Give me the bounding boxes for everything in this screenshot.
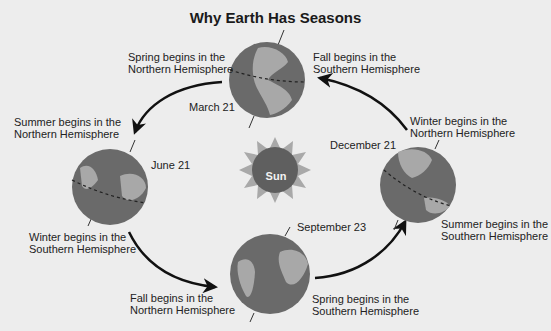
arrow-june-to-september xyxy=(129,232,215,287)
label-line: Northern Hemisphere xyxy=(14,128,121,140)
label-line: Fall begins in the xyxy=(313,51,420,63)
label-line: Northern Hemisphere xyxy=(410,127,515,139)
arrow-december-to-march xyxy=(320,78,407,130)
label-line: Southern Hemisphere xyxy=(441,230,548,242)
label-line: Winter begins in the xyxy=(410,115,515,127)
june-date: June 21 xyxy=(151,159,190,171)
june-northern-label: Summer begins in the Northern Hemisphere xyxy=(14,116,121,140)
earth-december-globe-icon xyxy=(380,140,456,230)
march-date: March 21 xyxy=(189,101,235,113)
march-southern-label: Fall begins in the Southern Hemisphere xyxy=(313,51,420,75)
label-line: Northern Hemisphere xyxy=(130,304,235,316)
earth-september-globe-icon xyxy=(230,227,310,322)
label-line: Winter begins in the xyxy=(29,231,136,243)
march-northern-label: Spring begins in the Northern Hemisphere xyxy=(128,51,233,75)
label-line: Spring begins in the xyxy=(128,51,233,63)
label-line: Spring begins in the xyxy=(312,293,419,305)
label-line: Southern Hemisphere xyxy=(312,305,419,317)
label-line: Fall begins in the xyxy=(130,292,235,304)
label-line: Southern Hemisphere xyxy=(313,63,420,75)
sun-label: Sun xyxy=(258,170,294,182)
december-southern-label: Summer begins in the Southern Hemisphere xyxy=(441,218,548,242)
seasons-diagram-art xyxy=(0,0,551,331)
label-line: Northern Hemisphere xyxy=(128,63,233,75)
september-date: September 23 xyxy=(297,221,366,233)
september-northern-label: Fall begins in the Northern Hemisphere xyxy=(130,292,235,316)
label-line: Summer begins in the xyxy=(441,218,548,230)
label-line: Southern Hemisphere xyxy=(29,243,136,255)
june-southern-label: Winter begins in the Southern Hemisphere xyxy=(29,231,136,255)
september-southern-label: Spring begins in the Southern Hemisphere xyxy=(312,293,419,317)
label-line: Summer begins in the xyxy=(14,116,121,128)
earth-march-globe-icon xyxy=(229,30,305,128)
december-northern-label: Winter begins in the Northern Hemisphere xyxy=(410,115,515,139)
earth-june-globe-icon xyxy=(72,140,148,226)
december-date: December 21 xyxy=(330,139,396,151)
